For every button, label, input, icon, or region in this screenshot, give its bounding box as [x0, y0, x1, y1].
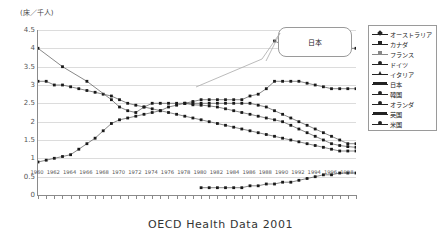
x-tick-label: 1990 — [275, 169, 288, 175]
data-point — [110, 95, 113, 98]
data-point — [224, 98, 227, 101]
data-point — [86, 89, 89, 92]
x-tick — [185, 195, 186, 199]
data-point — [45, 80, 48, 83]
x-tick — [209, 195, 210, 199]
data-point — [110, 122, 113, 125]
data-point — [94, 137, 97, 140]
data-point — [314, 128, 317, 131]
legend-item-label: ドイツ — [390, 60, 408, 69]
legend-item-label: カナダ — [390, 40, 408, 49]
x-tick — [193, 195, 194, 199]
x-tick — [54, 195, 55, 199]
x-tick-label: 1968 — [96, 169, 109, 175]
legend-item[interactable]: ドイツ — [372, 59, 434, 69]
x-tick-label: 1994 — [308, 169, 321, 175]
data-point — [281, 137, 284, 140]
x-tick — [356, 195, 357, 199]
x-tick — [226, 195, 227, 199]
legend-marker-circle-icon — [372, 120, 388, 129]
legend-item-label: フランス — [390, 50, 414, 59]
legend-item[interactable]: イタリア — [372, 69, 434, 79]
data-point — [183, 102, 186, 105]
x-tick — [283, 195, 284, 199]
data-point — [102, 129, 105, 132]
legend-item[interactable]: 米国 — [372, 119, 434, 129]
data-point — [69, 153, 72, 156]
data-point — [118, 106, 121, 109]
data-point — [143, 113, 146, 116]
data-point — [306, 177, 309, 180]
x-tick — [168, 195, 169, 199]
x-tick — [258, 195, 259, 199]
data-point — [200, 118, 203, 121]
x-tick — [160, 195, 161, 199]
data-point — [257, 184, 260, 187]
data-point — [355, 142, 356, 145]
legend-item[interactable]: カナダ — [372, 39, 434, 49]
x-tick — [250, 195, 251, 199]
data-point — [257, 93, 260, 96]
legend: オーストラリアカナダフランスドイツイタリア日本韓国オランダ英国米国 — [368, 25, 437, 131]
data-point — [298, 120, 301, 123]
data-point — [314, 175, 317, 178]
x-tick-label: 1976 — [161, 169, 174, 175]
data-point — [38, 47, 39, 50]
legend-item-label: 韓国 — [390, 90, 402, 99]
data-point — [216, 186, 219, 189]
x-tick-label: 1982 — [210, 169, 223, 175]
data-point — [224, 186, 227, 189]
data-point — [240, 98, 243, 101]
x-tick-label: 1998 — [340, 169, 353, 175]
legend-item[interactable]: 英国 — [372, 109, 434, 119]
x-tick — [217, 195, 218, 199]
x-tick — [315, 195, 316, 199]
data-point — [183, 115, 186, 118]
legend-item[interactable]: オランダ — [372, 99, 434, 109]
data-point — [159, 102, 162, 105]
data-point — [232, 126, 235, 129]
data-point — [232, 109, 235, 112]
legend-item-label: イタリア — [390, 70, 414, 79]
x-tick-label: 1996 — [324, 169, 337, 175]
legend-item[interactable]: オーストラリア — [372, 29, 434, 39]
data-point — [134, 104, 137, 107]
legend-marker-bar-icon — [372, 80, 388, 89]
data-point — [38, 80, 39, 83]
legend-item-label: 日本 — [390, 80, 402, 89]
legend-marker-cross-icon — [372, 70, 388, 79]
data-point — [232, 186, 235, 189]
data-point — [265, 106, 268, 109]
legend-item[interactable]: 韓国 — [372, 89, 434, 99]
data-point — [240, 128, 243, 131]
legend-item[interactable]: フランス — [372, 49, 434, 59]
x-tick — [128, 195, 129, 199]
data-point — [216, 106, 219, 109]
data-point — [86, 142, 89, 145]
x-tick — [136, 195, 137, 199]
data-point — [224, 124, 227, 127]
x-tick-label: 1978 — [177, 169, 190, 175]
legend-item[interactable]: 日本 — [372, 79, 434, 89]
data-point — [134, 115, 137, 118]
legend-marker-circle-icon — [372, 90, 388, 99]
y-axis-unit-label: (床／千人) — [20, 7, 53, 17]
data-point — [216, 102, 219, 105]
data-point — [126, 117, 129, 120]
data-point — [167, 106, 170, 109]
data-point — [208, 186, 211, 189]
x-tick — [38, 195, 39, 199]
x-tick — [177, 195, 178, 199]
data-point — [240, 186, 243, 189]
data-point — [94, 91, 97, 94]
x-tick — [242, 195, 243, 199]
data-point — [216, 98, 219, 101]
data-point — [77, 87, 80, 90]
data-point — [330, 148, 333, 151]
data-point — [118, 118, 121, 121]
x-tick-label: 1970 — [112, 169, 125, 175]
data-point — [249, 184, 252, 187]
x-tick — [307, 195, 308, 199]
data-point — [314, 135, 317, 138]
x-tick — [201, 195, 202, 199]
